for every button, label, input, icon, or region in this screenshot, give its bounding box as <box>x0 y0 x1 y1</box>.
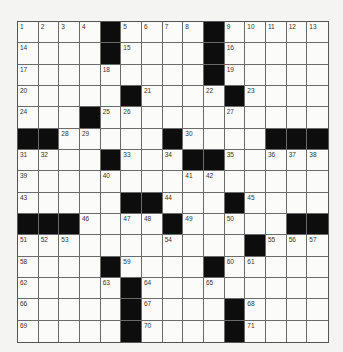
grid-cell[interactable]: 64 <box>142 278 163 299</box>
grid-cell[interactable] <box>266 107 287 128</box>
grid-cell[interactable] <box>287 278 308 299</box>
grid-cell[interactable] <box>307 86 328 107</box>
grid-cell[interactable]: 59 <box>121 257 142 278</box>
grid-cell[interactable] <box>163 65 184 86</box>
grid-cell[interactable] <box>287 257 308 278</box>
grid-cell[interactable] <box>183 43 204 64</box>
grid-cell[interactable] <box>142 257 163 278</box>
grid-cell[interactable] <box>266 65 287 86</box>
grid-cell[interactable] <box>39 86 60 107</box>
grid-cell[interactable] <box>59 107 80 128</box>
grid-cell[interactable] <box>204 214 225 235</box>
grid-cell[interactable]: 45 <box>245 193 266 214</box>
grid-cell[interactable]: 43 <box>18 193 39 214</box>
grid-cell[interactable] <box>245 107 266 128</box>
grid-cell[interactable] <box>204 235 225 256</box>
grid-cell[interactable]: 33 <box>121 150 142 171</box>
grid-cell[interactable]: 7 <box>163 22 184 43</box>
grid-cell[interactable]: 60 <box>225 257 246 278</box>
grid-cell[interactable]: 54 <box>163 235 184 256</box>
grid-cell[interactable] <box>101 86 122 107</box>
grid-cell[interactable] <box>287 193 308 214</box>
grid-cell[interactable] <box>266 43 287 64</box>
grid-cell[interactable] <box>163 86 184 107</box>
grid-cell[interactable] <box>163 321 184 342</box>
grid-cell[interactable] <box>307 43 328 64</box>
grid-cell[interactable] <box>80 65 101 86</box>
grid-cell[interactable]: 1 <box>18 22 39 43</box>
grid-cell[interactable] <box>183 86 204 107</box>
grid-cell[interactable] <box>121 171 142 192</box>
grid-cell[interactable]: 17 <box>18 65 39 86</box>
grid-cell[interactable] <box>204 321 225 342</box>
grid-cell[interactable] <box>245 278 266 299</box>
grid-cell[interactable] <box>183 257 204 278</box>
grid-cell[interactable] <box>266 278 287 299</box>
grid-cell[interactable]: 39 <box>18 171 39 192</box>
grid-cell[interactable]: 66 <box>18 299 39 320</box>
grid-cell[interactable]: 53 <box>59 235 80 256</box>
grid-cell[interactable] <box>59 278 80 299</box>
grid-cell[interactable] <box>307 278 328 299</box>
grid-cell[interactable] <box>204 193 225 214</box>
grid-cell[interactable] <box>266 299 287 320</box>
grid-cell[interactable] <box>39 321 60 342</box>
grid-cell[interactable]: 5 <box>121 22 142 43</box>
grid-cell[interactable] <box>142 129 163 150</box>
grid-cell[interactable] <box>183 107 204 128</box>
grid-cell[interactable]: 11 <box>266 22 287 43</box>
grid-cell[interactable]: 12 <box>287 22 308 43</box>
grid-cell[interactable]: 35 <box>225 150 246 171</box>
grid-cell[interactable]: 19 <box>225 65 246 86</box>
grid-cell[interactable] <box>307 257 328 278</box>
grid-cell[interactable]: 31 <box>18 150 39 171</box>
grid-cell[interactable] <box>266 321 287 342</box>
grid-cell[interactable] <box>163 257 184 278</box>
grid-cell[interactable]: 69 <box>18 321 39 342</box>
grid-cell[interactable]: 16 <box>225 43 246 64</box>
grid-cell[interactable]: 55 <box>266 235 287 256</box>
grid-cell[interactable]: 6 <box>142 22 163 43</box>
grid-cell[interactable]: 42 <box>204 171 225 192</box>
grid-cell[interactable]: 52 <box>39 235 60 256</box>
grid-cell[interactable] <box>287 65 308 86</box>
grid-cell[interactable]: 58 <box>18 257 39 278</box>
grid-cell[interactable] <box>80 278 101 299</box>
grid-cell[interactable] <box>59 257 80 278</box>
grid-cell[interactable]: 24 <box>18 107 39 128</box>
grid-cell[interactable] <box>142 150 163 171</box>
grid-cell[interactable]: 18 <box>101 65 122 86</box>
grid-cell[interactable]: 46 <box>80 214 101 235</box>
grid-cell[interactable] <box>142 171 163 192</box>
grid-cell[interactable] <box>39 43 60 64</box>
grid-cell[interactable]: 56 <box>287 235 308 256</box>
grid-cell[interactable] <box>225 235 246 256</box>
grid-cell[interactable] <box>142 65 163 86</box>
grid-cell[interactable] <box>39 257 60 278</box>
grid-cell[interactable] <box>183 65 204 86</box>
grid-cell[interactable]: 27 <box>225 107 246 128</box>
grid-cell[interactable] <box>80 321 101 342</box>
grid-cell[interactable] <box>142 107 163 128</box>
grid-cell[interactable] <box>101 321 122 342</box>
grid-cell[interactable] <box>163 299 184 320</box>
grid-cell[interactable] <box>101 235 122 256</box>
grid-cell[interactable]: 36 <box>266 150 287 171</box>
grid-cell[interactable] <box>287 299 308 320</box>
grid-cell[interactable] <box>307 321 328 342</box>
grid-cell[interactable]: 10 <box>245 22 266 43</box>
grid-cell[interactable]: 2 <box>39 22 60 43</box>
grid-cell[interactable] <box>183 278 204 299</box>
grid-cell[interactable]: 49 <box>183 214 204 235</box>
grid-cell[interactable] <box>80 193 101 214</box>
grid-cell[interactable]: 48 <box>142 214 163 235</box>
grid-cell[interactable] <box>121 235 142 256</box>
grid-cell[interactable]: 22 <box>204 86 225 107</box>
grid-cell[interactable] <box>121 65 142 86</box>
grid-cell[interactable]: 38 <box>307 150 328 171</box>
grid-cell[interactable] <box>39 278 60 299</box>
grid-cell[interactable]: 65 <box>204 278 225 299</box>
grid-cell[interactable] <box>307 65 328 86</box>
grid-cell[interactable]: 14 <box>18 43 39 64</box>
grid-cell[interactable]: 62 <box>18 278 39 299</box>
